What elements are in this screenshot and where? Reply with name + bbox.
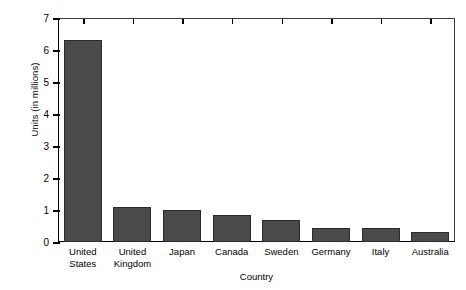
x-tick-label-line: Kingdom (105, 258, 161, 270)
y-tick-label: 0 (33, 236, 49, 250)
y-tick-label: 4 (33, 108, 49, 122)
bar (362, 228, 400, 242)
bar (64, 40, 102, 242)
y-tick-label: 6 (33, 44, 49, 58)
x-tick-label: UnitedStates (55, 246, 111, 269)
x-tick-label: Italy (353, 246, 409, 258)
x-tick-label-line: Sweden (254, 246, 310, 258)
x-tick-label-line: United (55, 246, 111, 258)
x-tick-label-line: United (105, 246, 161, 258)
y-tick-label: 7 (33, 12, 49, 26)
bar (411, 232, 449, 242)
bar (163, 210, 201, 242)
x-tick-label: Japan (154, 246, 210, 258)
x-tick-label: Australia (402, 246, 458, 258)
x-tick-label: UnitedKingdom (105, 246, 161, 269)
bar (262, 220, 300, 242)
x-tick-label: Sweden (254, 246, 310, 258)
x-tick-label-line: Australia (402, 246, 458, 258)
x-tick-label-line: Japan (154, 246, 210, 258)
x-tick-label: Canada (204, 246, 260, 258)
y-tick-label: 1 (33, 204, 49, 218)
x-tick-label-line: Italy (353, 246, 409, 258)
y-tick-label: 3 (33, 140, 49, 154)
x-tick-label: Germany (303, 246, 359, 258)
x-tick-label-line: States (55, 258, 111, 270)
bar-chart: Units (in millions) 01234567 UnitedState… (0, 0, 466, 290)
y-tick-mark (53, 242, 60, 243)
bars-group (58, 18, 455, 242)
x-tick-label-line: Canada (204, 246, 260, 258)
y-tick-label: 5 (33, 76, 49, 90)
x-tick-label-line: Germany (303, 246, 359, 258)
bar (213, 215, 251, 242)
x-axis-title: Country (58, 271, 455, 282)
bar (312, 228, 350, 242)
bar (113, 207, 151, 242)
y-tick-label: 2 (33, 172, 49, 186)
